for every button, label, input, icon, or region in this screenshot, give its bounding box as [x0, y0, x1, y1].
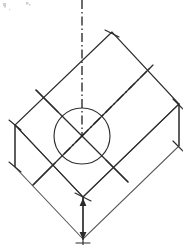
- right-depth-tick-top: [173, 99, 183, 109]
- right-side-face: [83, 104, 179, 239]
- depth-edges: [15, 104, 179, 245]
- isometric-block-drawing: [0, 0, 183, 251]
- top-face-path: [15, 32, 179, 197]
- drawing-canvas: [0, 0, 183, 251]
- left-side-face: [15, 125, 83, 239]
- tick-lower-left: [33, 163, 55, 185]
- centerlines: [62, 0, 152, 156]
- front-dimension-arrow-up: [80, 198, 87, 206]
- side-faces: [15, 104, 179, 239]
- top-face-outline: [15, 32, 179, 197]
- right-depth-tick-bottom: [173, 141, 183, 151]
- scan-artifacts: [3, 2, 31, 10]
- dimension-terminators: [9, 99, 183, 243]
- tick-upper-right: [131, 65, 153, 87]
